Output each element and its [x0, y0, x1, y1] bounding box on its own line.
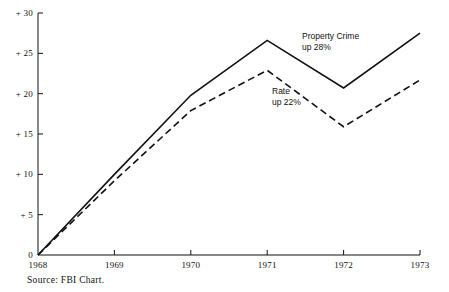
crime-statistics-line-chart: 0+ 5+ 10+ 15+ 20+ 25+ 30 196819691970197… — [0, 0, 449, 292]
x-tick-label: 1972 — [324, 260, 364, 270]
annotation-property-crime: Property Crime up 28% — [302, 31, 359, 53]
y-tick-label: 0 — [0, 250, 33, 260]
x-tick-label: 1970 — [171, 260, 211, 270]
series-line-rate — [38, 70, 420, 255]
x-tick-label: 1971 — [247, 260, 287, 270]
x-tick-group — [114, 250, 420, 255]
x-tick-label: 1969 — [94, 260, 134, 270]
y-tick-label: + 25 — [0, 48, 33, 58]
x-tick-label: 1968 — [18, 260, 58, 270]
y-tick-label: + 30 — [0, 8, 33, 18]
y-tick-label: + 20 — [0, 89, 33, 99]
y-tick-label: + 10 — [0, 169, 33, 179]
y-tick-label: + 15 — [0, 129, 33, 139]
y-tick-group — [38, 13, 43, 215]
series-line-property-crime — [38, 33, 420, 255]
axis-group — [38, 13, 420, 255]
series-group — [38, 33, 420, 255]
annotation-rate: Rate up 22% — [272, 86, 301, 108]
x-tick-label: 1973 — [400, 260, 440, 270]
annotation-rate-line1: Rate — [272, 86, 301, 97]
annotation-property-crime-line2: up 28% — [302, 42, 359, 53]
plot-area — [0, 0, 449, 292]
annotation-property-crime-line1: Property Crime — [302, 31, 359, 42]
source-note: Source: FBI Chart. — [27, 275, 104, 285]
annotation-rate-line2: up 22% — [272, 97, 301, 108]
y-tick-label: + 5 — [0, 210, 33, 220]
